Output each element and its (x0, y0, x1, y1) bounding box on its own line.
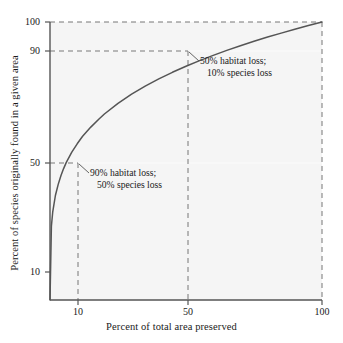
annotation-lower: 90% habitat loss; 50% species loss (90, 167, 162, 192)
x-tick-label-10: 10 (58, 306, 98, 317)
annotation-lower-line1: 90% habitat loss; (90, 167, 156, 178)
x-axis-title: Percent of total area preserved (0, 321, 343, 332)
chart-canvas (0, 0, 343, 343)
annotation-upper-line1: 50% habitat loss; (200, 55, 266, 66)
annotation-lower-line2: 50% species loss (90, 179, 162, 191)
annotation-upper: 50% habitat loss; 10% species loss (200, 55, 272, 80)
plot-area-background (50, 22, 322, 300)
species-area-chart-figure: 10 50 100 100 90 50 10 Percent of total … (0, 0, 343, 343)
x-tick-label-100: 100 (302, 306, 342, 317)
y-axis-title-container: Percent of species originally found in a… (9, 13, 25, 313)
annotation-upper-line2: 10% species loss (200, 67, 272, 79)
x-tick-label-50: 50 (168, 306, 208, 317)
y-axis-title: Percent of species originally found in a… (9, 13, 20, 313)
